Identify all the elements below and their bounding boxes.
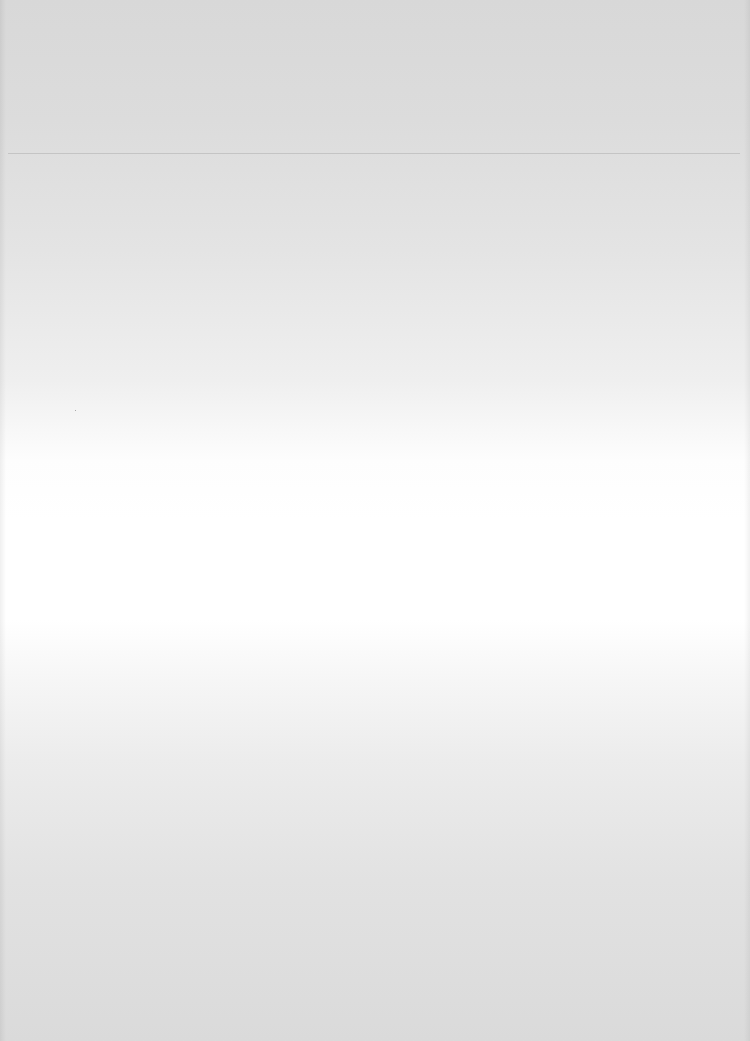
page-edge-shadow-right	[744, 0, 750, 1041]
scan-speck	[75, 410, 76, 411]
scan-artifact-line	[8, 153, 740, 154]
scanned-blank-page	[0, 0, 750, 1041]
page-edge-shadow-left	[0, 0, 6, 1041]
